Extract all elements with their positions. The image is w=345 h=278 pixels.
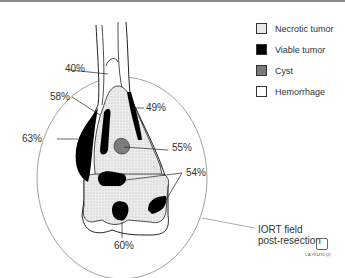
label-55: 55%: [172, 142, 192, 153]
legend-item-viable: Viable tumor: [256, 39, 334, 60]
legend-label: Viable tumor: [275, 45, 325, 55]
label-40: 40%: [65, 63, 85, 74]
legend-label: Hemorrhage: [275, 87, 325, 97]
necrotic-swatch: [256, 23, 267, 34]
iort-field-label: IORT field post-resection: [258, 224, 321, 246]
label-63: 63%: [22, 133, 42, 144]
legend-item-necrotic: Necrotic tumor: [256, 18, 334, 39]
label-54: 54%: [186, 167, 206, 178]
viable-swatch: [256, 44, 267, 55]
legend-label: Cyst: [275, 66, 293, 76]
label-49: 49%: [146, 102, 166, 113]
cyst-swatch: [256, 65, 267, 76]
field-line1: IORT field: [258, 224, 321, 235]
field-line2: post-resection: [258, 235, 321, 246]
label-58: 58%: [50, 91, 70, 102]
legend: Necrotic tumor Viable tumor Cyst Hemorrh…: [256, 18, 334, 102]
label-60: 60%: [114, 240, 134, 251]
hemorrhage-swatch: [256, 86, 267, 97]
legend-label: Necrotic tumor: [275, 24, 334, 34]
logo-icon: [316, 238, 328, 250]
cyst-area: [114, 138, 130, 154]
figure-code: CA 791470 (2): [305, 252, 331, 257]
legend-item-hemorrhage: Hemorrhage: [256, 81, 334, 102]
legend-item-cyst: Cyst: [256, 60, 334, 81]
